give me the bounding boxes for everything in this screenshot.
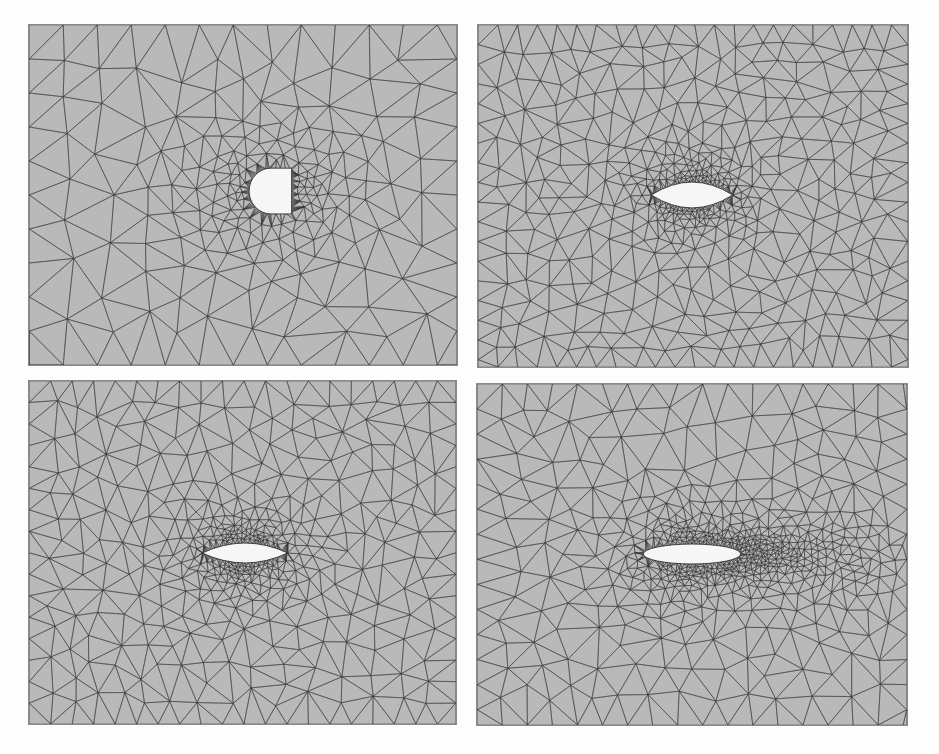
mesh-panel-top-left-d-shape — [28, 24, 458, 366]
mesh-panel-bottom-left-airfoil — [28, 380, 457, 725]
triangular-mesh — [29, 381, 456, 724]
mesh-panel-bottom-right-ellipse-wake — [476, 383, 908, 726]
d-shaped-obstacle — [249, 168, 292, 214]
ellipse-obstacle — [643, 544, 740, 564]
triangular-mesh — [29, 25, 457, 365]
triangular-mesh — [477, 384, 907, 725]
mesh-panel-top-right-airfoil — [477, 24, 909, 368]
triangular-mesh — [478, 25, 908, 367]
